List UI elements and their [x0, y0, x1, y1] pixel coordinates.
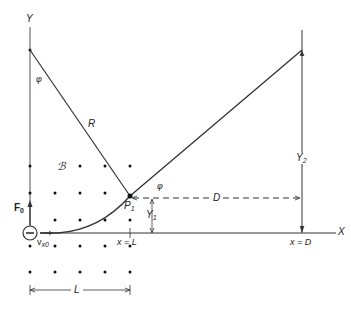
center-point — [29, 49, 32, 52]
point-p1 — [128, 194, 133, 199]
x-eq-l-label: x = L — [117, 238, 137, 247]
radius-label: R — [88, 119, 95, 129]
y1-label: Y1 — [146, 210, 157, 221]
length-l-label: L — [74, 285, 80, 295]
magnetic-field-dots — [29, 165, 132, 274]
y2-label: Y2 — [296, 153, 307, 164]
p1-label: P1 — [124, 201, 135, 212]
x-axis-label: X — [338, 227, 345, 237]
x-eq-d-label: x = D — [290, 238, 311, 247]
velocity-arrow-icon — [44, 231, 52, 235]
phi-exit-label: φ — [157, 182, 163, 191]
y2-arrow-bottom-icon — [300, 226, 304, 232]
field-label: ℬ — [57, 161, 66, 172]
radius-line — [30, 50, 130, 196]
force-label: F0 — [14, 203, 24, 214]
velocity-label: vx0 — [37, 238, 49, 248]
y-axis-label: Y — [26, 14, 33, 24]
force-arrowhead-icon — [28, 200, 33, 207]
distance-d-label: D — [212, 193, 221, 203]
phi-top-label: φ — [36, 75, 42, 84]
electron-trajectory — [40, 50, 302, 233]
